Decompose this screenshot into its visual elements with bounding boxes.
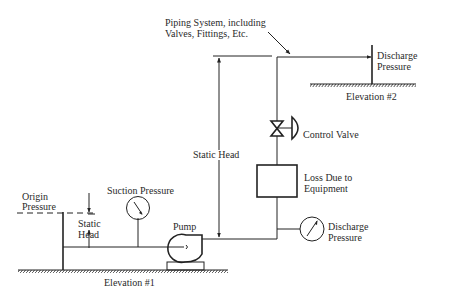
suction-pressure-label: Suction Pressure — [107, 185, 175, 196]
piping-label-1: Piping System, including — [165, 17, 266, 28]
pump-system-diagram: Elevation #1 Elevation #2 Origin Pressur… — [0, 0, 454, 299]
suction-pressure-gauge — [127, 197, 150, 248]
discharge-gauge-label-1: Discharge — [328, 221, 369, 232]
origin-label-2: Pressure — [22, 201, 56, 212]
left-static-head-label-2: Head — [78, 229, 99, 240]
main-static-head-dimension — [213, 56, 272, 237]
loss-label-2: Equipment — [304, 183, 348, 194]
control-valve-label: Control Valve — [303, 129, 359, 140]
loss-label-1: Loss Due to — [304, 172, 352, 183]
equipment-box — [257, 165, 297, 197]
pump-icon — [167, 234, 204, 270]
main-static-head-label: Static Head — [193, 149, 239, 160]
piping-annotation-leader — [268, 32, 290, 54]
discharge-gauge-label-2: Pressure — [328, 232, 362, 243]
elevation-2-label: Elevation #2 — [346, 91, 397, 102]
control-valve-icon — [271, 117, 298, 150]
elevation-1-label: Elevation #1 — [104, 277, 155, 288]
discharge-top-label-1: Discharge — [377, 50, 418, 61]
piping-label-2: Valves, Fittings, Etc. — [165, 28, 248, 39]
discharge-pipe — [202, 197, 277, 239]
pump-label: Pump — [173, 221, 196, 232]
discharge-top-label-2: Pressure — [377, 61, 411, 72]
discharge-pressure-gauge — [277, 217, 324, 241]
left-static-head-label-1: Static — [78, 218, 101, 229]
ground-elevation-2 — [310, 84, 416, 87]
